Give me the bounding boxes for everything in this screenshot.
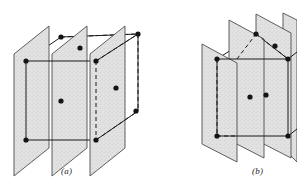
panel-a (14, 26, 141, 176)
atom-a-body-centre-right (113, 85, 118, 90)
panel-a-plane-1 (14, 26, 49, 176)
panel-b (202, 13, 297, 162)
atom-a-top-front-right (93, 58, 98, 63)
panel-b-plane-1 (202, 44, 237, 162)
panel-a-plane-3 (90, 26, 125, 176)
crystal-planes-figure (0, 0, 297, 190)
atom-a-bottom-front-left (23, 137, 28, 142)
atom-a-top-back-left (58, 34, 63, 39)
figure-root: (a) (b) (0, 0, 297, 190)
atom-a-right-back-lower (133, 108, 138, 113)
lattice-plane-a-3 (90, 26, 125, 176)
atom-b-top-front-right (285, 56, 290, 61)
atom-a-top-back-right (135, 31, 140, 36)
atom-b-top-back-mid (272, 43, 277, 48)
atom-b-top-back-left (214, 56, 219, 61)
atom-a-bottom-front-right (93, 137, 98, 142)
atom-b-bottom-front-right (285, 133, 290, 138)
atom-a-top-front-left (23, 58, 28, 63)
atom-b-right-mid (263, 92, 268, 97)
lattice-plane-a-1 (14, 26, 49, 176)
atom-a-top-back-mid (77, 45, 82, 50)
atom-b-bottom-front-left (214, 133, 219, 138)
caption-b: (b) (252, 166, 263, 176)
atom-b-body-centre (247, 94, 252, 99)
caption-a: (a) (61, 166, 72, 176)
atom-b-top-back-right (253, 31, 258, 36)
atom-a-body-centre-left (58, 98, 63, 103)
lattice-plane-b-1 (202, 44, 237, 162)
